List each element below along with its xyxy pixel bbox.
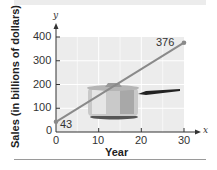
bottom-divider (14, 159, 206, 160)
annotation-start-value: 43 (60, 118, 72, 130)
x-tick-30: 30 (178, 134, 190, 146)
y-tick-100: 100 (33, 101, 51, 113)
y-axis-arrow-icon (54, 23, 59, 29)
x-tick-10: 10 (92, 134, 104, 146)
data-point-end (182, 40, 187, 45)
data-point-start (54, 120, 59, 125)
x-axis-label: Year (105, 146, 128, 158)
y-tick-200: 200 (33, 78, 51, 90)
y-tick-0: 0 (46, 124, 52, 136)
y-axis-label: Sales (in billions of dollars) (9, 18, 21, 148)
y-tick-400: 400 (33, 30, 51, 42)
x-axis-arrow-icon (195, 130, 201, 135)
x-axis-letter: x (203, 125, 208, 135)
annotation-end-value: 376 (156, 36, 174, 48)
x-tick-20: 20 (135, 134, 147, 146)
x-tick-0: 0 (53, 134, 59, 146)
y-tick-300: 300 (33, 54, 51, 66)
y-axis-letter: y (53, 10, 58, 20)
